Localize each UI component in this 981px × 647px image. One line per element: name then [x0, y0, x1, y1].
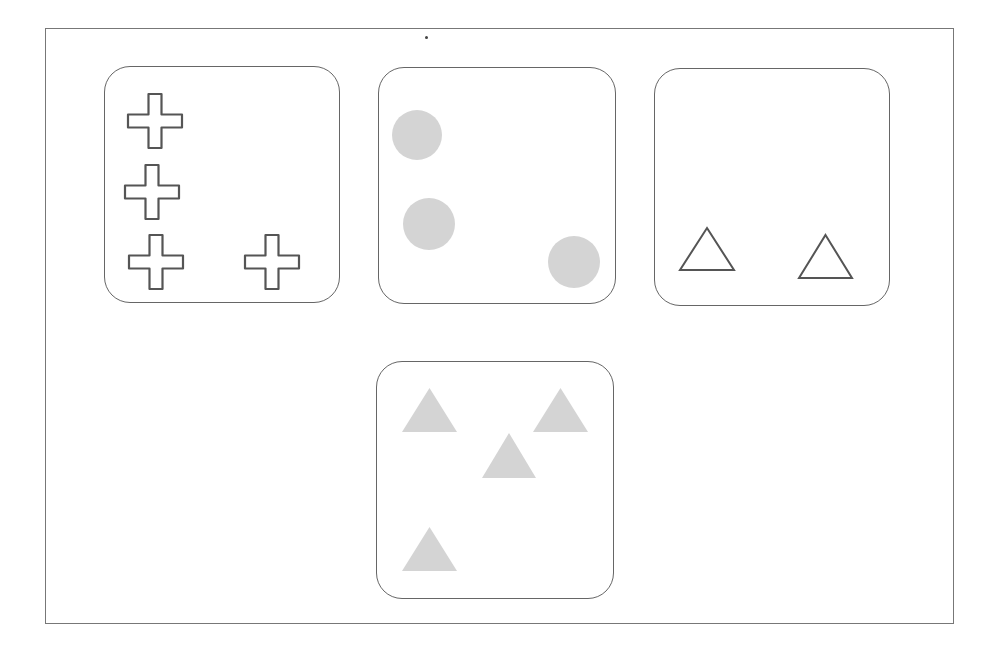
- circle-icon: [392, 110, 442, 160]
- cross-icon: [245, 235, 299, 289]
- cross-icon: [129, 235, 183, 289]
- circle-icon: [548, 236, 600, 288]
- triangle-outline-icon: [799, 235, 852, 278]
- triangle-outline-icon: [680, 228, 734, 270]
- triangle-filled-icon: [533, 388, 588, 432]
- triangle-filled-icon: [482, 433, 536, 478]
- cross-icon: [128, 94, 182, 148]
- circle-icon: [403, 198, 455, 250]
- shapes-layer: [0, 0, 981, 647]
- triangle-filled-icon: [402, 388, 457, 432]
- cross-icon: [125, 165, 179, 219]
- triangle-filled-icon: [402, 527, 457, 571]
